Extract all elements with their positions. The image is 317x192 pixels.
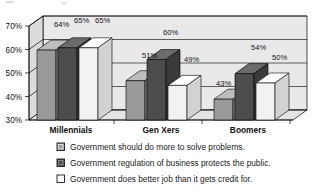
value-label: 49% [184,55,199,64]
value-label: 54% [251,43,266,52]
legend-label: Government regulation of business protec… [70,158,271,168]
value-label: 50% [272,53,287,62]
value-label: 65% [95,16,110,25]
x-tick-label: Gen Xers [143,125,180,135]
y-tick-label: 70% [6,22,22,31]
y-tick-labels: 70% 60% 50% 40% 30% [6,22,22,125]
y-tick-label: 30% [6,116,22,125]
chart-canvas: 70% 60% 50% 40% 30% [0,0,317,192]
value-label: 60% [163,28,178,37]
x-tick-labels: Millennials Gen Xers Boomers [50,125,267,135]
bar-millennials-series3 [79,38,112,120]
value-label: 43% [216,79,231,88]
bar-chart: 70% 60% 50% 40% 30% [0,0,317,192]
y-tick-label: 60% [6,46,22,55]
legend-item-1: Government regulation of business protec… [57,158,271,168]
x-tick-label: Millennials [50,125,93,135]
chart-legend: Government should do more to solve probl… [57,142,271,184]
bar-genxers-series3 [168,75,201,120]
legend-label: Government does better job than it gets … [70,174,252,184]
scan-artifact [6,1,13,3]
x-axis [29,120,293,124]
legend-swatch-icon [57,159,65,167]
legend-swatch-icon [57,175,65,183]
x-tick-label: Boomers [230,125,267,135]
bar-boomers-series3 [256,73,289,120]
value-label: 51% [142,51,157,60]
legend-item-2: Government does better job than it gets … [57,174,252,184]
legend-swatch-icon [57,143,65,151]
legend-label: Government should do more to solve probl… [70,142,245,152]
scan-artifact [61,2,67,4]
value-label: 65% [74,16,89,25]
value-label: 64% [54,20,69,29]
y-tick-label: 50% [6,69,22,78]
y-tick-label: 40% [6,93,22,102]
legend-item-0: Government should do more to solve probl… [57,142,245,152]
